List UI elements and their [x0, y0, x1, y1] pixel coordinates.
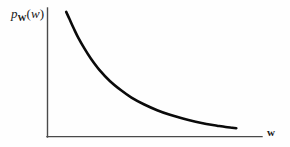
density-plot-figure: pW(w) w — [0, 0, 290, 147]
density-curve — [66, 12, 236, 128]
y-axis-label-argument: w — [31, 6, 40, 21]
y-axis-label: pW(w) — [11, 7, 44, 23]
data-group — [66, 12, 236, 128]
y-axis-label-close-paren: ) — [40, 6, 44, 21]
y-axis-label-subscript: W — [18, 13, 27, 23]
axes-group — [47, 8, 262, 137]
x-axis-label: w — [267, 127, 275, 138]
y-axis-label-symbol: p — [11, 6, 18, 21]
